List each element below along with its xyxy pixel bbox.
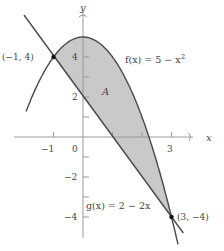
area-between-curves-figure: y x −1 0 3 4 2 −2 −4 f(x) = 5 − x2 g(x) … [0, 0, 224, 251]
g-function-label: g(x) = 2 − 2x [86, 200, 151, 211]
intersection-point-right [169, 215, 173, 219]
y-tick-label-2: 2 [72, 92, 78, 102]
x-tick-label-3: 3 [167, 144, 173, 154]
y-tick-label-neg2: −2 [64, 172, 77, 182]
x-axis-label: x [206, 132, 212, 143]
x-tick-label-neg1: −1 [41, 144, 54, 154]
region-a-label: A [101, 86, 109, 97]
y-tick-label-4: 4 [72, 52, 78, 62]
origin-label: 0 [72, 144, 78, 154]
y-axis-label: y [79, 2, 86, 13]
intersection-point-left [51, 55, 55, 59]
point-label-right: (3, −4) [177, 212, 209, 222]
point-label-left: (−1, 4) [2, 52, 34, 62]
y-tick-label-neg4: −4 [64, 212, 78, 222]
x-axis [14, 133, 193, 141]
f-function-label: f(x) = 5 − x2 [125, 53, 185, 65]
